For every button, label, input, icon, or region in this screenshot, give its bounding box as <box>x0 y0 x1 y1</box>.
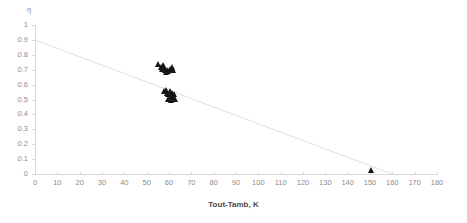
data-point-marker <box>168 97 174 103</box>
trendline <box>35 40 392 174</box>
x-axis-title: Tout-Tamb, K <box>0 201 467 209</box>
trendline-layer <box>0 0 467 223</box>
data-point-marker <box>368 167 374 173</box>
data-point-marker <box>165 68 171 74</box>
chart-container: η 00.10.20.30.40.50.60.70.80.91 01020304… <box>0 0 467 223</box>
